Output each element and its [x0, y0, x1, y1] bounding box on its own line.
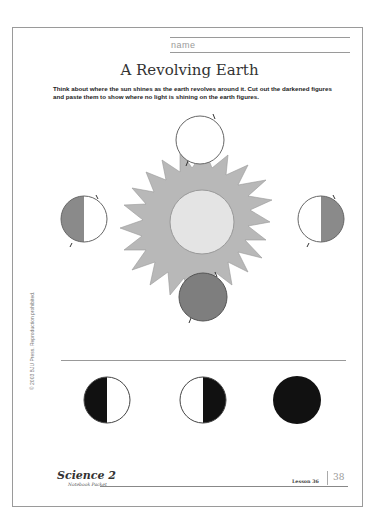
cutout-left-dark[interactable]: [84, 377, 130, 423]
science-logo: Science 2: [57, 469, 116, 482]
orbit-diagram: [0, 0, 379, 517]
cutout-right-dark[interactable]: [180, 377, 226, 423]
earth-left: [61, 195, 107, 247]
lesson-label: Lesson 36: [292, 478, 319, 484]
page-number: 38: [333, 472, 344, 482]
earth-right: [298, 195, 344, 247]
footer-line: [100, 486, 348, 487]
earth-bottom: [179, 272, 227, 323]
cutout-divider: [61, 360, 346, 361]
cutout-full-dark[interactable]: [273, 376, 321, 424]
page-separator: [327, 471, 328, 485]
sun-core: [170, 190, 234, 254]
